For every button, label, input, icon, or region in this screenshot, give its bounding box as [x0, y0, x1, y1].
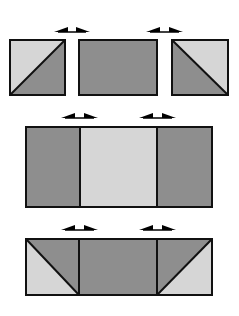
rectangle-fill: [79, 40, 157, 95]
quilt-piecing-diagram: [0, 0, 239, 316]
double-arrow-icon: [139, 113, 176, 118]
double-arrow-icon: [61, 113, 98, 118]
rectangle-piece: [79, 239, 157, 295]
arrowhead-left: [139, 225, 153, 230]
row-1-separate-pieces: [10, 27, 228, 95]
rectangle-fill: [157, 127, 212, 207]
arrowhead-right: [162, 225, 176, 230]
arrowhead-right: [76, 27, 90, 32]
double-arrow-icon: [54, 27, 90, 32]
rectangle-piece: [157, 127, 212, 207]
rectangle-piece: [80, 127, 157, 207]
row-2-joined-strips: [26, 113, 212, 207]
row-3-joined-with-triangles: [26, 225, 212, 295]
double-arrow-icon: [146, 27, 183, 32]
arrowhead-right: [162, 113, 176, 118]
half-square-triangle-piece: [10, 40, 65, 95]
arrowhead-left: [139, 113, 153, 118]
rectangle-piece: [26, 127, 80, 207]
double-arrow-icon: [139, 225, 176, 230]
arrowhead-right: [84, 225, 98, 230]
arrowhead-left: [61, 113, 75, 118]
rectangle-fill: [26, 127, 80, 207]
arrowhead-right: [169, 27, 183, 32]
arrowhead-left: [61, 225, 75, 230]
rectangle-piece: [79, 40, 157, 95]
rectangle-fill: [80, 127, 157, 207]
arrowhead-left: [54, 27, 68, 32]
double-arrow-icon: [61, 225, 98, 230]
half-square-triangle-piece: [157, 239, 212, 295]
half-square-triangle-piece: [26, 239, 79, 295]
rectangle-fill: [79, 239, 157, 295]
half-square-triangle-piece: [172, 40, 228, 95]
arrowhead-left: [146, 27, 160, 32]
arrowhead-right: [84, 113, 98, 118]
